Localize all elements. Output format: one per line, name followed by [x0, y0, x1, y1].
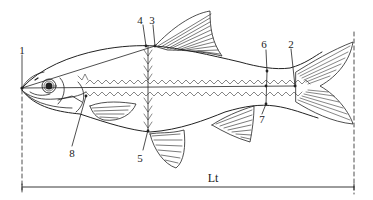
caudal-fin [296, 42, 353, 124]
dorsal-fin [155, 11, 222, 56]
landmark-label-4: 4 [137, 15, 143, 26]
landmark-label-7: 7 [259, 114, 265, 125]
landmark-points [20, 45, 296, 133]
pelvic-fin [150, 130, 185, 168]
anal-fin [212, 106, 254, 142]
fish-drawing [0, 0, 373, 200]
landmark-label-6: 6 [261, 39, 267, 50]
total-length-label: Lt [208, 172, 219, 184]
landmark-label-8: 8 [69, 148, 75, 159]
lateral-line-scales [78, 50, 310, 128]
landmark-label-3: 3 [149, 15, 155, 26]
landmark-label-1: 1 [19, 45, 25, 56]
landmark-label-5: 5 [137, 153, 143, 164]
landmark-label-2: 2 [288, 39, 294, 50]
pectoral-fin [90, 102, 136, 120]
body-outline [22, 46, 322, 132]
fish-diagram: 1 2 3 4 5 6 7 8 Lt [0, 0, 373, 200]
